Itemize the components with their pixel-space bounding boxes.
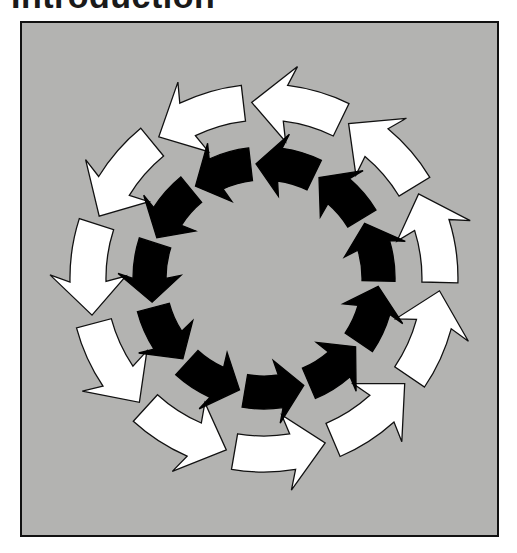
white-curved-arrow-icon <box>349 118 430 196</box>
black-curved-arrow-icon <box>242 361 304 424</box>
black-curved-arrow-icon <box>176 350 240 408</box>
white-curved-arrow-icon <box>77 319 147 403</box>
black-curved-arrow-icon <box>344 223 405 281</box>
white-curved-arrow-icon <box>159 82 246 152</box>
white-curved-arrow-icon <box>86 128 164 216</box>
white-curved-arrow-icon <box>232 415 326 490</box>
inner-black-arrow-ring <box>118 134 405 423</box>
black-curved-arrow-icon <box>302 342 356 398</box>
black-curved-arrow-icon <box>137 303 192 359</box>
white-curved-arrow-icon <box>133 395 226 472</box>
black-curved-arrow-icon <box>144 177 202 238</box>
white-curved-arrow-icon <box>326 384 405 457</box>
black-curved-arrow-icon <box>196 143 253 201</box>
black-curved-arrow-icon <box>343 286 403 351</box>
black-curved-arrow-icon <box>319 171 376 227</box>
black-curved-arrow-icon <box>118 238 181 302</box>
circular-arrows-diagram <box>0 0 517 553</box>
black-curved-arrow-icon <box>256 134 321 196</box>
white-curved-arrow-icon <box>252 67 349 142</box>
white-curved-arrow-icon <box>50 219 126 316</box>
outer-white-arrow-ring <box>50 67 470 491</box>
white-curved-arrow-icon <box>397 194 470 283</box>
white-curved-arrow-icon <box>395 291 469 387</box>
